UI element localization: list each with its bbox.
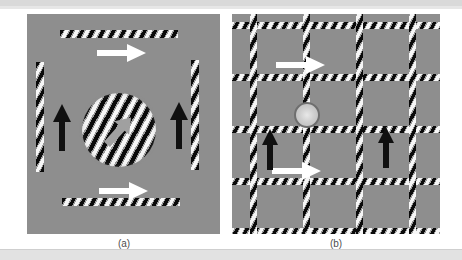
grating-bar-top [60,30,178,38]
panel-a [27,14,220,234]
motion-arrow-right-upper-icon [276,56,326,74]
motion-arrow-right-bottom-icon [99,182,149,200]
panel-a-caption: (a) [84,238,164,249]
motion-arrow-diagonal-center-icon [99,111,139,151]
panel-b-caption: (b) [296,238,376,249]
motion-arrow-right-top-icon [97,44,147,62]
fixation-marker-icon [294,102,320,128]
figure-container: (a) (b) [0,9,462,249]
panel-b [232,14,440,234]
motion-arrow-up-right-side-icon [170,102,188,150]
motion-arrow-up-left-b-icon [262,129,278,171]
grid-line-v-1 [250,14,257,234]
motion-arrow-up-right-b-icon [378,127,394,169]
page-bottom-band [0,250,462,260]
motion-arrow-right-lower-icon [272,162,322,180]
grating-bar-right [191,60,199,170]
grating-bar-left [36,62,44,172]
plaid-grid [232,14,440,234]
motion-arrow-up-left-icon [53,104,71,152]
grid-line-v-4 [409,14,416,234]
grid-line-v-3 [356,14,363,234]
